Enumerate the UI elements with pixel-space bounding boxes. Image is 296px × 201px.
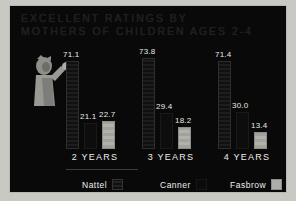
bar-group-3-years: 73.8 29.4 18.2 — [132, 50, 208, 149]
bar-label-canner-g2: 30.0 — [232, 101, 248, 110]
legend-label-nattel: Nattel — [82, 180, 107, 190]
bar-label-fasbrow-g0: 22.7 — [99, 110, 115, 119]
bar-canner-g2[interactable] — [236, 112, 249, 149]
bar-group-2-years: 71.1 21.1 22.7 — [56, 50, 132, 149]
bar-label-canner-g0: 21.1 — [80, 112, 96, 121]
bar-fasbrow-g2[interactable] — [254, 132, 267, 149]
legend-swatch-fasbrow — [271, 179, 282, 190]
chart-title: EXCELLENT RATINGS BY MOTHERS OF CHILDREN… — [21, 12, 279, 37]
chart-screenshot: EXCELLENT RATINGS BY MOTHERS OF CHILDREN… — [0, 0, 296, 201]
chart-legend: Nattel Canner Fasbrow — [50, 178, 286, 192]
legend-item-canner[interactable]: Canner — [160, 178, 207, 191]
x-tick-1: 3 YEARS — [140, 152, 202, 162]
plot-area: 71.1 21.1 22.7 73.8 29 — [56, 50, 282, 149]
legend-label-canner: Canner — [160, 180, 191, 190]
bar-fasbrow-g1[interactable] — [178, 127, 191, 149]
x-tick-2: 4 YEARS — [216, 152, 278, 162]
legend-item-fasbrow[interactable]: Fasbrow — [230, 178, 282, 191]
legend-swatch-nattel — [112, 179, 123, 190]
bar-label-nattel-g0: 71.1 — [63, 50, 79, 59]
bar-label-nattel-g1: 73.8 — [139, 47, 155, 56]
bar-label-fasbrow-g2: 13.4 — [251, 121, 267, 130]
bar-label-canner-g1: 29.4 — [156, 102, 172, 111]
chart-title-line-1: EXCELLENT RATINGS BY — [21, 12, 279, 25]
bar-canner-g0[interactable] — [84, 123, 97, 149]
x-axis: 2 YEARS 3 YEARS 4 YEARS — [56, 152, 282, 166]
axis-rule — [66, 169, 138, 170]
bar-canner-g1[interactable] — [160, 113, 173, 149]
bar-nattel-g0[interactable] — [66, 61, 79, 149]
bar-group-4-years: 71.4 30.0 13.4 — [208, 50, 284, 149]
x-tick-0: 2 YEARS — [64, 152, 126, 162]
chart-title-line-2: MOTHERS OF CHILDREN AGES 2-4 — [21, 25, 279, 38]
legend-label-fasbrow: Fasbrow — [230, 180, 266, 190]
bar-nattel-g2[interactable] — [218, 61, 231, 149]
legend-swatch-canner — [196, 179, 207, 190]
legend-item-nattel[interactable]: Nattel — [82, 178, 123, 191]
bar-fasbrow-g0[interactable] — [102, 121, 115, 149]
chart-panel: EXCELLENT RATINGS BY MOTHERS OF CHILDREN… — [9, 5, 287, 193]
bar-label-fasbrow-g1: 18.2 — [175, 116, 191, 125]
bar-label-nattel-g2: 71.4 — [215, 50, 231, 59]
bar-nattel-g1[interactable] — [142, 58, 155, 149]
